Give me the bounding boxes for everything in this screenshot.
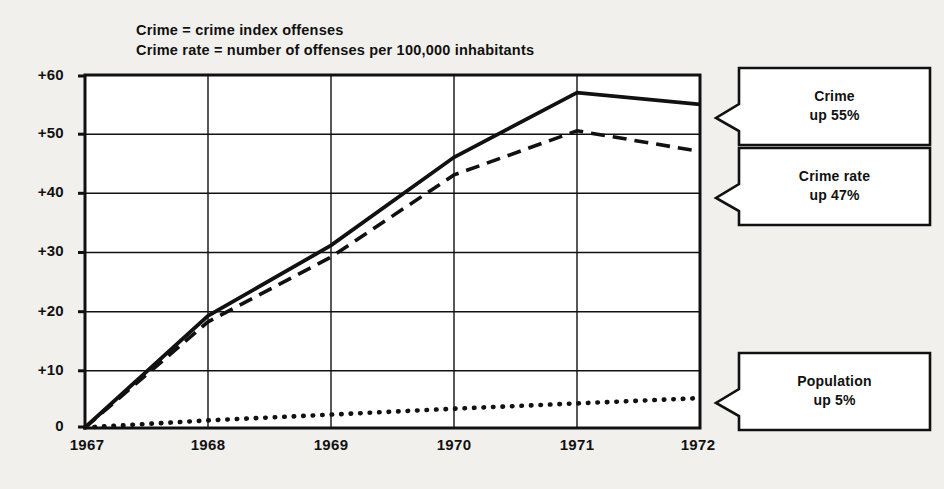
line-chart-plot	[0, 0, 944, 489]
x-tick-label-1968: 1968	[191, 436, 226, 453]
callout-crime-text: Crime up 55%	[742, 87, 927, 125]
y-tick-label-50: +50	[6, 124, 64, 141]
callout-population-text: Population up 5%	[742, 372, 927, 410]
callout-crime-rate-line2: up 47%	[742, 186, 927, 205]
plot-frame	[85, 75, 700, 428]
y-tick-label-0: 0	[6, 417, 64, 434]
y-tick-label-20: +20	[6, 302, 64, 319]
y-tick-label-10: +10	[6, 361, 64, 378]
y-tick-label-60: +60	[6, 66, 64, 83]
x-tick-label-1972: 1972	[681, 436, 716, 453]
x-tick-label-1971: 1971	[560, 436, 595, 453]
callout-population-line2: up 5%	[742, 391, 927, 410]
x-tick-label-1970: 1970	[437, 436, 472, 453]
chart-page: Crime = crime index offenses Crime rate …	[0, 0, 944, 489]
x-tick-label-1969: 1969	[314, 436, 349, 453]
callout-crime-line1: Crime	[742, 87, 927, 106]
y-tick-label-30: +30	[6, 242, 64, 259]
callout-crime-rate-text: Crime rate up 47%	[742, 167, 927, 205]
callout-crime-rate-line1: Crime rate	[742, 167, 927, 186]
y-tick-label-40: +40	[6, 183, 64, 200]
x-tick-label-1967: 1967	[70, 436, 105, 453]
callout-crime-line2: up 55%	[742, 106, 927, 125]
callout-population-line1: Population	[742, 372, 927, 391]
